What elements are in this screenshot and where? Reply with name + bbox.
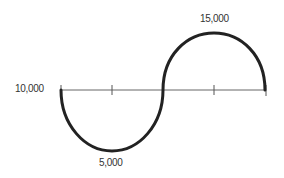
sine-curve — [61, 33, 265, 151]
baseline-label: 10,000 — [15, 83, 44, 94]
peak-label: 15,000 — [200, 13, 229, 24]
trough-label: 5,000 — [99, 157, 123, 168]
